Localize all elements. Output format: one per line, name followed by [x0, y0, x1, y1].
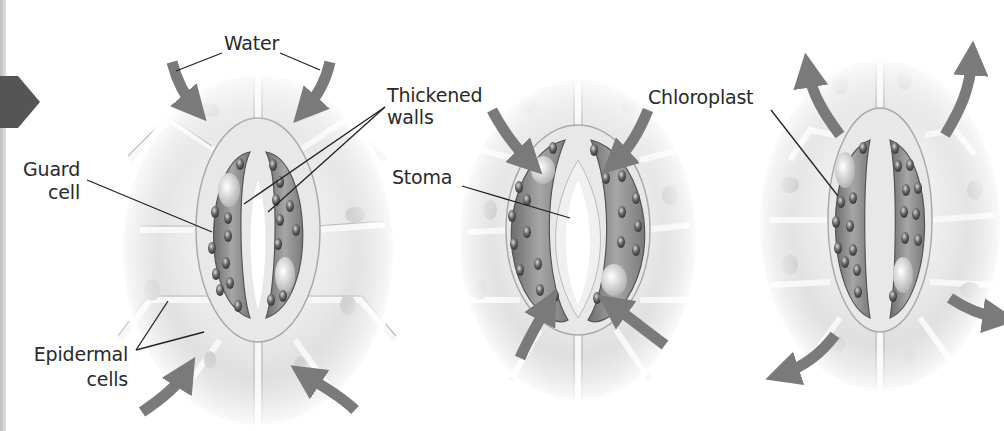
label-water: Water [224, 32, 279, 54]
panel-closed-stoma [756, 55, 1004, 395]
water-leader-left [176, 53, 222, 71]
label-stoma: Stoma [392, 166, 452, 188]
arrow-right-icon [0, 76, 40, 128]
diagram-illustration [0, 0, 1004, 431]
stomata-diagram: Water Thickened walls Guard cell Stoma C… [0, 0, 1004, 431]
label-guard-cell-line1: Guard [22, 158, 80, 180]
label-epidermal-cells-line2: cells [30, 368, 128, 390]
label-thickened-walls-line2: walls [387, 106, 434, 128]
label-chloroplast: Chloroplast [648, 86, 753, 108]
water-leader-right [280, 53, 320, 70]
panel-intermediate-stoma [456, 75, 700, 405]
label-epidermal-cells-line1: Epidermal [30, 343, 128, 365]
panel-open-stoma [118, 62, 398, 430]
water-arrow-icon [172, 62, 195, 108]
label-guard-cell-line2: cell [22, 181, 80, 203]
label-thickened-walls-line1: Thickened [387, 84, 482, 106]
